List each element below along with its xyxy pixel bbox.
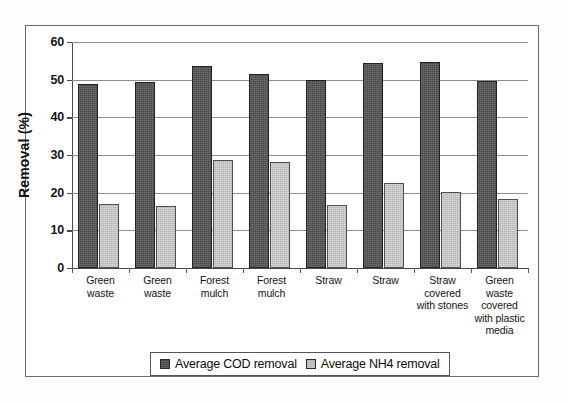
gridline-60 [72,42,528,43]
legend-label: Average NH4 removal [321,357,440,371]
chart-legend: Average COD removalAverage NH4 removal [150,352,450,376]
x-label-line: covered [471,299,528,312]
legend-swatch-cod-icon [160,359,170,369]
y-tick-mark-20 [67,193,72,194]
x-label-line: with stones [414,299,471,312]
y-tick-label-20: 20 [50,186,64,200]
bar-nh4-6 [441,192,461,268]
bar-cod-1 [135,82,155,268]
x-label-line: waste [471,287,528,300]
x-tick-2 [186,268,187,273]
x-label-line: mulch [243,287,300,300]
y-tick-mark-10 [67,230,72,231]
bar-cod-3 [249,74,269,268]
x-label-line: Forest [186,274,243,287]
y-tick-label-30: 30 [50,148,64,162]
bar-cod-2 [192,66,212,268]
y-tick-label-40: 40 [50,110,64,124]
x-label-line: Green [129,274,186,287]
x-axis-label-3: Forestmulch [243,274,300,299]
x-tick-4 [300,268,301,273]
bar-nh4-7 [498,199,518,268]
x-label-line: Green [471,274,528,287]
bar-nh4-2 [213,160,233,268]
x-label-line: Straw [357,274,414,287]
x-tick-7 [471,268,472,273]
bar-cod-6 [420,62,440,268]
y-tick-label-60: 60 [50,35,64,49]
x-label-line: Green [72,274,129,287]
x-axis-label-2: Forestmulch [186,274,243,299]
bar-nh4-1 [156,206,176,268]
y-tick-mark-30 [67,155,72,156]
x-tick-0 [72,268,73,273]
legend-swatch-nh4-icon [306,359,316,369]
y-tick-label-0: 0 [57,261,64,275]
x-label-line: Straw [414,274,471,287]
gridline-50 [72,80,528,81]
y-tick-mark-40 [67,117,72,118]
x-axis-labels: GreenwasteGreenwasteForestmulchForestmul… [72,274,528,350]
y-tick-mark-50 [67,80,72,81]
legend-item-cod[interactable]: Average COD removal [160,357,297,371]
x-label-line: Forest [243,274,300,287]
bar-cod-4 [306,80,326,268]
x-axis-label-1: Greenwaste [129,274,186,299]
x-label-line: covered [414,287,471,300]
bar-cod-5 [363,63,383,268]
x-label-line: media [471,324,528,337]
bar-nh4-0 [99,204,119,268]
bar-cod-7 [477,81,497,268]
x-tick-1 [129,268,130,273]
x-axis-label-7: Greenwastecoveredwith plasticmedia [471,274,528,337]
x-tick-5 [357,268,358,273]
x-tick-6 [414,268,415,273]
legend-label: Average COD removal [175,357,297,371]
bar-cod-0 [78,84,98,268]
figure-container: Removal (%) 0102030405060 GreenwasteGree… [0,0,569,402]
x-axis-label-6: Strawcoveredwith stones [414,274,471,312]
y-axis-title: Removal (%) [16,112,32,198]
legend-item-nh4[interactable]: Average NH4 removal [306,357,440,371]
x-label-line: mulch [186,287,243,300]
y-tick-label-50: 50 [50,73,64,87]
bar-nh4-5 [384,183,404,269]
plot-area: 0102030405060 [72,42,528,268]
x-axis-label-0: Greenwaste [72,274,129,299]
x-label-line: with plastic [471,312,528,325]
bar-nh4-4 [327,205,347,268]
x-axis-label-5: Straw [357,274,414,287]
x-axis-label-4: Straw [300,274,357,287]
x-label-line: waste [72,287,129,300]
y-tick-mark-60 [67,42,72,43]
x-tick-3 [243,268,244,273]
y-tick-label-10: 10 [50,223,64,237]
x-tick-8 [528,268,529,273]
x-label-line: Straw [300,274,357,287]
x-label-line: waste [129,287,186,300]
bar-nh4-3 [270,162,290,268]
